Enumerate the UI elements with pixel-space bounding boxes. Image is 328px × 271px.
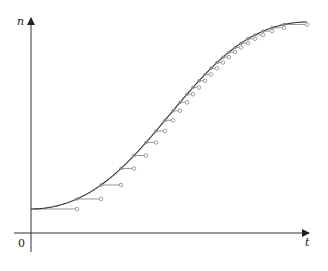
open-dot [154, 141, 158, 145]
open-dot [215, 67, 219, 71]
filled-dot [154, 129, 157, 132]
y-axis-label: n [17, 15, 24, 28]
open-dot [185, 101, 189, 105]
open-dot [246, 41, 250, 45]
filled-dot [191, 86, 194, 89]
open-dot [239, 46, 243, 50]
filled-dot [203, 73, 206, 76]
filled-dot [270, 26, 273, 29]
open-dot [305, 23, 309, 27]
filled-dot [282, 23, 285, 26]
open-dot [99, 197, 103, 201]
filled-dot [253, 33, 256, 36]
filled-dot [163, 119, 166, 122]
open-dot [132, 167, 136, 171]
filled-dot [171, 109, 174, 112]
logistic-curve [31, 22, 307, 209]
open-dot [75, 207, 79, 211]
filled-dot [119, 167, 122, 170]
open-dot [282, 26, 286, 30]
open-dot [233, 50, 237, 54]
origin-label: 0 [18, 237, 25, 250]
filled-dot [239, 42, 242, 45]
filled-dot [221, 55, 224, 58]
open-dot [171, 118, 175, 122]
filled-dot [75, 197, 78, 200]
open-dot [221, 61, 225, 65]
chart: n t 0 [0, 0, 328, 271]
open-dot [253, 37, 257, 41]
open-dot [197, 86, 201, 90]
open-dot [191, 92, 195, 96]
step-function [31, 24, 307, 209]
filled-dot [215, 61, 218, 64]
open-dot [227, 55, 231, 59]
step-dots [75, 23, 309, 211]
filled-dot [132, 154, 135, 157]
x-axis-label: t [305, 236, 310, 249]
filled-dot [99, 183, 102, 186]
open-dot [203, 79, 207, 83]
open-dot [261, 33, 265, 37]
open-dot [270, 29, 274, 33]
filled-dot [197, 79, 200, 82]
filled-dot [227, 50, 230, 53]
filled-dot [178, 101, 181, 104]
open-dot [144, 154, 148, 158]
filled-dot [144, 141, 147, 144]
filled-dot [261, 29, 264, 32]
open-dot [178, 109, 182, 113]
open-dot [119, 183, 123, 187]
filled-dot [246, 37, 249, 40]
filled-dot [185, 93, 188, 96]
open-dot [209, 73, 213, 77]
filled-dot [233, 46, 236, 49]
filled-dot [209, 67, 212, 70]
open-dot [163, 129, 167, 133]
